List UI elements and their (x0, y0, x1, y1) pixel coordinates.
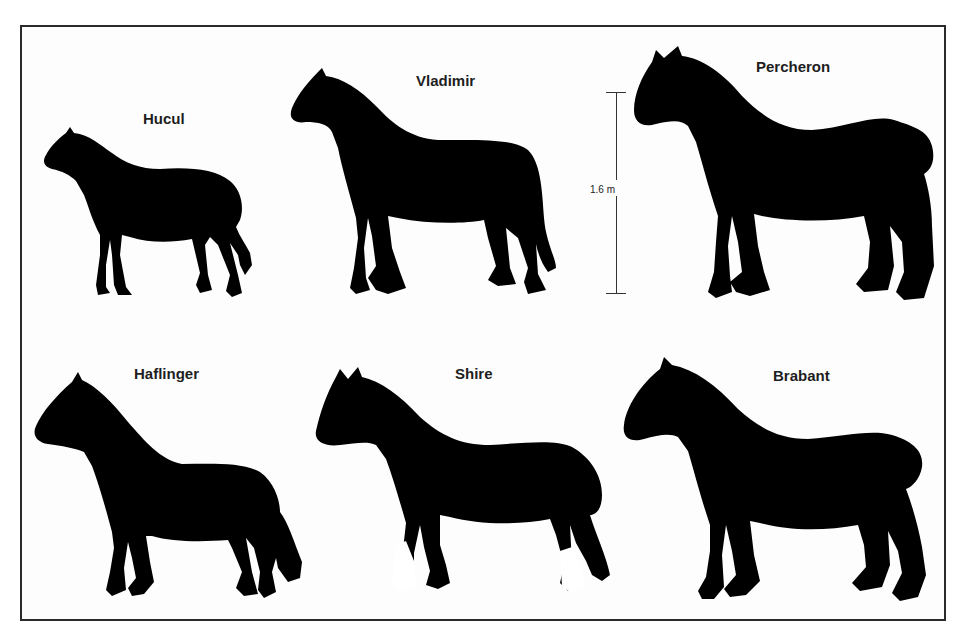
haflinger-silhouette-icon (32, 372, 304, 604)
scale-label: 1.6 m (590, 183, 615, 196)
vladimir-silhouette-icon (288, 68, 563, 300)
percheron-silhouette-icon (632, 46, 937, 304)
hucul-silhouette-icon (40, 125, 265, 300)
brabant-silhouette-icon (620, 355, 938, 605)
shire-silhouette-icon (310, 365, 622, 605)
